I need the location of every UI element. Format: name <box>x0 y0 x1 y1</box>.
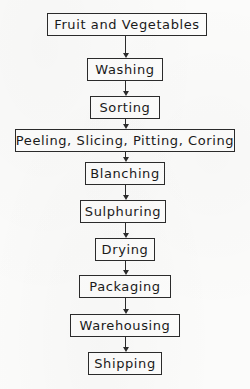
process-step-label: Drying <box>102 243 149 256</box>
process-step-warehousing: Warehousing <box>70 314 180 337</box>
process-step-fruit-and-vegetables: Fruit and Vegetables <box>47 13 207 36</box>
connector-stem <box>125 36 126 54</box>
process-step-label: Warehousing <box>80 319 171 332</box>
process-step-label: Sulphuring <box>85 205 161 218</box>
process-step-label: Peeling, Slicing, Pitting, Coring <box>16 134 234 147</box>
process-step-label: Packaging <box>89 280 160 293</box>
process-step-blanching: Blanching <box>85 162 165 185</box>
process-step-label: Blanching <box>90 167 160 180</box>
process-step-sorting: Sorting <box>90 96 160 119</box>
process-step-peeling-slicing-pitting-coring: Peeling, Slicing, Pitting, Coring <box>15 129 235 152</box>
process-step-label: Shipping <box>94 357 156 370</box>
process-step-label: Sorting <box>100 101 151 114</box>
process-step-shipping: Shipping <box>88 352 162 375</box>
process-step-label: Washing <box>95 63 154 76</box>
process-step-drying: Drying <box>95 238 155 261</box>
process-step-sulphuring: Sulphuring <box>80 200 166 223</box>
process-step-label: Fruit and Vegetables <box>54 18 199 31</box>
process-step-washing: Washing <box>87 58 163 81</box>
process-step-packaging: Packaging <box>79 275 171 298</box>
process-flowchart: Fruit and VegetablesWashingSortingPeelin… <box>0 0 250 389</box>
